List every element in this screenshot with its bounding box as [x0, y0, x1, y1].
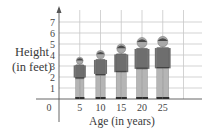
y-tick-label: 7	[50, 17, 55, 28]
y-axis-arrow-icon	[57, 6, 62, 13]
x-axis-label: Age (in years)	[89, 115, 155, 128]
x-tick-label: 20	[137, 102, 147, 113]
head	[137, 37, 147, 47]
right-shoe	[142, 97, 148, 99]
right-arm	[126, 54, 128, 72]
left-leg	[76, 79, 80, 97]
right-shoe	[101, 97, 106, 99]
left-arm	[135, 49, 137, 69]
y-tick-label: 5	[50, 39, 55, 50]
right-leg	[163, 69, 169, 98]
pictograph-chart: 12345670510152025 Age (in years)	[0, 0, 205, 135]
figures	[74, 36, 171, 99]
left-shoe	[75, 97, 80, 99]
head	[76, 57, 83, 64]
left-shoe	[156, 97, 162, 99]
right-shoe	[80, 97, 85, 99]
shirt	[136, 48, 148, 69]
tick-labels: 12345670510152025	[47, 17, 168, 114]
right-shoe	[163, 97, 169, 99]
y-tick-label: 4	[50, 50, 55, 61]
right-shoe	[121, 97, 126, 99]
shirt	[156, 47, 169, 68]
right-arm	[148, 49, 150, 69]
right-arm	[169, 48, 171, 68]
x-tick-label: 0	[47, 102, 52, 113]
head	[97, 51, 105, 59]
right-leg	[80, 79, 84, 97]
shirt	[96, 59, 106, 75]
y-tick-label: 3	[50, 61, 55, 72]
shirt	[75, 65, 84, 79]
left-leg	[116, 73, 121, 98]
right-arm	[84, 65, 86, 77]
left-arm	[155, 48, 157, 68]
right-leg	[142, 69, 147, 97]
y-tick-label: 6	[50, 28, 55, 39]
left-arm	[74, 65, 76, 77]
x-tick-label: 5	[77, 102, 82, 113]
y-tick-label: 1	[50, 83, 55, 94]
head	[158, 36, 168, 47]
x-tick-label: 10	[96, 102, 106, 113]
y-tick-label: 2	[50, 72, 55, 83]
left-arm	[94, 60, 96, 74]
left-leg	[157, 69, 163, 98]
x-tick-label: 15	[116, 102, 126, 113]
left-shoe	[96, 97, 101, 99]
right-arm	[105, 60, 107, 74]
left-arm	[114, 54, 116, 72]
left-leg	[136, 69, 141, 97]
head	[117, 44, 126, 53]
left-shoe	[116, 97, 121, 99]
left-shoe	[136, 97, 142, 99]
shirt	[116, 54, 127, 73]
x-tick-label: 25	[158, 102, 168, 113]
left-leg	[96, 76, 100, 98]
right-leg	[101, 76, 105, 98]
right-leg	[122, 73, 127, 98]
